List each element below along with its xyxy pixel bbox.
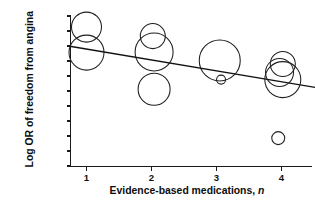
bubble-n4-outlier xyxy=(272,132,285,145)
y-axis-ticks xyxy=(67,16,71,166)
x-tick-label-2: 2 xyxy=(139,173,164,183)
bubble-series xyxy=(69,12,301,145)
bubble-n1-lower xyxy=(69,35,104,70)
y-axis-title: Log OR of freedom from angina xyxy=(25,0,35,181)
bubble-n3-small xyxy=(217,75,226,84)
x-axis-ticks xyxy=(87,167,282,172)
x-tick-label-3: 3 xyxy=(204,173,229,183)
bubble-n2-mid xyxy=(135,33,173,71)
bubble-n2-low xyxy=(138,73,170,105)
x-tick-label-1: 1 xyxy=(74,173,99,183)
x-axis-title: Evidence-based medications, n xyxy=(64,186,310,196)
bubble-n1-upper xyxy=(72,12,102,42)
x-axis-title-text: Evidence-based medications, xyxy=(110,185,256,196)
x-tick-label-4: 4 xyxy=(269,173,294,183)
chart-figure: 2.001.501.000.500.00−0.50−1.00−1.50−2.00… xyxy=(0,0,315,206)
x-axis-title-italic-n: n xyxy=(258,185,264,196)
